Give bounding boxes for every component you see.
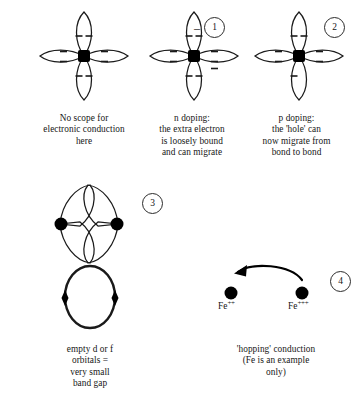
central-atom xyxy=(78,50,90,62)
overlapping-orbitals-svg xyxy=(48,183,132,265)
badge-marker-2: 2 xyxy=(324,17,345,38)
orbital-lobe-bottom xyxy=(292,56,307,100)
arrowhead-left-down xyxy=(62,290,69,298)
atom-left xyxy=(55,218,68,231)
ion-charge: +++ xyxy=(297,299,308,307)
overlapping-orbitals-figure xyxy=(48,183,132,265)
caption-line: empty d or f xyxy=(10,344,170,355)
orbital-lobe-top xyxy=(77,12,92,56)
caption-band-gap: empty d or f orbitals = very small band … xyxy=(10,344,170,390)
ion-element: Fe xyxy=(218,301,227,311)
ion-charge: ++ xyxy=(227,299,235,307)
central-atom xyxy=(188,50,200,62)
caption-line: bond to bond xyxy=(235,147,358,158)
badge-marker-1: 1 xyxy=(204,17,225,38)
orbital-lobe-bottom xyxy=(187,56,202,100)
caption-p-doping: p doping: the 'hole' can now migrate fro… xyxy=(235,113,358,159)
four-lobe-orbital-svg xyxy=(38,8,130,104)
caption-line: very small xyxy=(10,367,170,378)
band-loop-figure xyxy=(56,264,124,330)
atom-right xyxy=(111,218,124,231)
caption-line: band gap xyxy=(10,378,170,389)
caption-line: the 'hole' can xyxy=(235,124,358,135)
badge-marker-4: 4 xyxy=(330,271,351,292)
negative-charge-sign: – xyxy=(194,22,200,34)
caption-line: orbitals = xyxy=(10,355,170,366)
band-loop-ellipse xyxy=(65,266,115,328)
ion-label-fe3plus: Fe+++ xyxy=(288,298,309,311)
badge-marker-3: 3 xyxy=(142,193,163,214)
ion-element: Fe xyxy=(288,301,297,311)
arrowhead-right-up xyxy=(112,298,119,306)
caption-line: only) xyxy=(196,367,356,378)
caption-line: 'hopping' conduction xyxy=(196,344,356,355)
orbital-lobe-bottom xyxy=(77,56,92,100)
orbital-lobe-top xyxy=(292,12,307,56)
caption-line: now migrate from xyxy=(235,136,358,147)
central-atom xyxy=(293,50,305,62)
band-loop-svg xyxy=(56,264,124,330)
caption-hopping: 'hopping' conduction (Fe is an example o… xyxy=(196,344,356,378)
hop-arrow-path xyxy=(238,266,302,280)
caption-line: p doping: xyxy=(235,113,358,124)
caption-line: (Fe is an example xyxy=(196,355,356,366)
arrowhead-left-up xyxy=(62,298,69,306)
arrowhead-right-down xyxy=(112,290,119,298)
ion-label-fe2plus: Fe++ xyxy=(218,298,235,311)
hop-arrowhead xyxy=(234,265,247,277)
orbital-figure-undoped xyxy=(38,8,130,104)
